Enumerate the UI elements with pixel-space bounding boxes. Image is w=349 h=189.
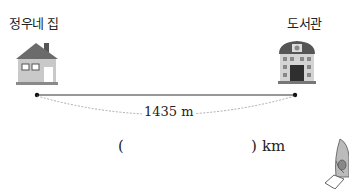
distance-diagram <box>0 0 349 189</box>
distance-label: 1435 m <box>142 104 196 119</box>
answer-open-paren: ( <box>118 137 124 155</box>
answer-input[interactable] <box>130 137 245 157</box>
character-icon <box>322 137 349 189</box>
answer-unit: km <box>262 137 285 155</box>
answer-close-paren: ) <box>251 137 257 155</box>
